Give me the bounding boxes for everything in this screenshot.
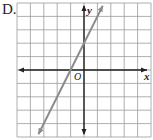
x-axis [18,68,147,73]
coordinate-graph: y x O [0,0,153,140]
y-axis-label: y [85,4,92,16]
origin-label: O [74,71,81,82]
x-axis-label: x [143,70,150,82]
